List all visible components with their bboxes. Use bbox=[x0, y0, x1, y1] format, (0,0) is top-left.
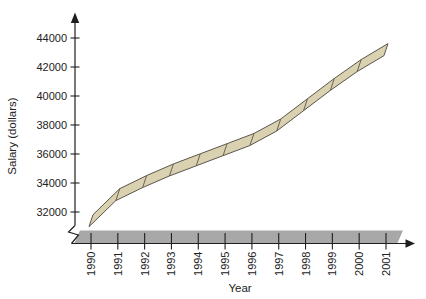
x-tick-label: 1997 bbox=[273, 252, 285, 276]
x-tick-label: 2000 bbox=[353, 252, 365, 276]
x-tick-label: 1992 bbox=[139, 252, 151, 276]
x-axis-title: Year bbox=[228, 282, 251, 294]
y-axis-title: Salary (dollars) bbox=[6, 97, 18, 174]
x-tick-label: 1996 bbox=[246, 252, 258, 276]
x-tick-label: 1993 bbox=[165, 252, 177, 276]
y-tick-label: 34000 bbox=[36, 177, 67, 189]
y-axis-arrow-icon bbox=[71, 13, 79, 24]
x-axis-floor-band-3d bbox=[75, 231, 404, 244]
x-tick-label: 1994 bbox=[192, 252, 204, 276]
x-tick-label: 1998 bbox=[300, 252, 312, 276]
y-tick-label: 40000 bbox=[36, 90, 67, 102]
salary-vs-year-figure: 4400042000400003800036000340003200019901… bbox=[0, 0, 426, 299]
x-tick-label: 2001 bbox=[380, 252, 392, 276]
salary-ribbon-series bbox=[89, 44, 388, 227]
y-tick-label: 36000 bbox=[36, 148, 67, 160]
y-tick-label: 38000 bbox=[36, 119, 67, 131]
x-tick-label: 1995 bbox=[219, 252, 231, 276]
x-tick-label: 1999 bbox=[326, 252, 338, 276]
y-tick-label: 44000 bbox=[36, 32, 67, 44]
y-tick-label: 32000 bbox=[36, 206, 67, 218]
x-tick-label: 1991 bbox=[112, 252, 124, 276]
y-tick-label: 42000 bbox=[36, 61, 67, 73]
figure-stage: 4400042000400003800036000340003200019901… bbox=[0, 0, 426, 299]
x-axis-arrow-icon bbox=[406, 239, 416, 247]
x-tick-label: 1990 bbox=[85, 252, 97, 276]
salary-chart-canvas: 4400042000400003800036000340003200019901… bbox=[0, 0, 426, 299]
